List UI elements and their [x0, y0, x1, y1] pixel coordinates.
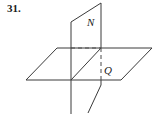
intersecting-planes-diagram: N Q — [0, 0, 156, 114]
plane-q-outline — [26, 48, 152, 80]
plane-n-bottom-edge — [88, 85, 101, 113]
plane-q-label: Q — [104, 64, 112, 76]
plane-n-label: N — [86, 16, 95, 28]
geometry-figure: 31. N Q — [0, 0, 156, 114]
plane-n-top-edge — [71, 3, 101, 22]
plane-n-front-diagonal — [71, 48, 101, 80]
